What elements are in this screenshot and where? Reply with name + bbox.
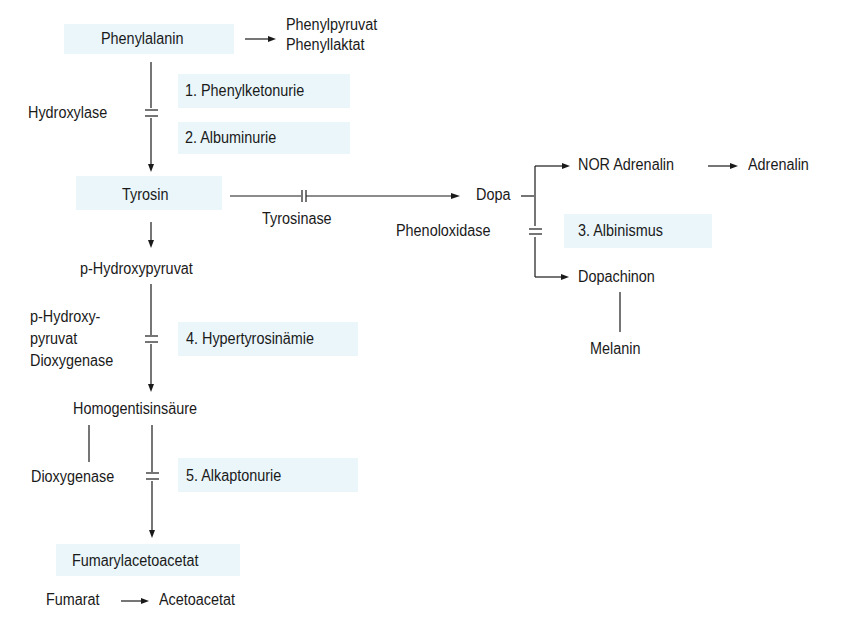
metabolite-dopa: Dopa bbox=[476, 186, 510, 204]
metabolite-phenylalanin: Phenylalanin bbox=[101, 30, 183, 48]
enzyme-phenoloxidase: Phenoloxidase bbox=[396, 222, 490, 240]
enzyme-dioxygenase: Dioxygenase bbox=[31, 468, 114, 486]
metabolite-phenylpyruvat: Phenylpyruvat bbox=[286, 16, 377, 34]
enzyme-p-hydroxypyruvat-dioxygenase-line2: pyruvat bbox=[30, 330, 77, 348]
disorder-label-4: 4. Hypertyrosinämie bbox=[186, 330, 314, 348]
enzyme-hydroxylase: Hydroxylase bbox=[28, 104, 107, 122]
disorder-label-3: 3. Albinismus bbox=[578, 222, 663, 240]
disorder-label-2: 2. Albuminurie bbox=[185, 129, 276, 147]
metabolite-p-hydroxypyruvat: p-Hydroxypyruvat bbox=[80, 260, 193, 278]
enzyme-p-hydroxypyruvat-dioxygenase-line1: p-Hydroxy- bbox=[30, 308, 100, 326]
metabolite-phenyllaktat: Phenyllaktat bbox=[286, 36, 364, 54]
metabolite-dopachinon: Dopachinon bbox=[578, 268, 655, 286]
disorder-label-5: 5. Alkaptonurie bbox=[186, 467, 281, 485]
metabolite-fumarylacetoacetat: Fumarylacetoacetat bbox=[72, 552, 198, 570]
metabolic-pathway-diagram: Phenylalanin Phenylpyruvat Phenyllaktat … bbox=[0, 0, 853, 642]
enzyme-tyrosinase: Tyrosinase bbox=[262, 210, 332, 228]
metabolite-melanin: Melanin bbox=[590, 340, 640, 358]
metabolite-fumarat: Fumarat bbox=[46, 591, 100, 609]
metabolite-acetoacetat: Acetoacetat bbox=[159, 591, 235, 609]
metabolite-tyrosin: Tyrosin bbox=[122, 186, 168, 204]
pathway-connectors bbox=[0, 0, 853, 642]
metabolite-nor-adrenalin: NOR Adrenalin bbox=[578, 156, 674, 174]
enzyme-p-hydroxypyruvat-dioxygenase-line3: Dioxygenase bbox=[30, 352, 113, 370]
disorder-label-1: 1. Phenylketonurie bbox=[185, 82, 304, 100]
metabolite-adrenalin: Adrenalin bbox=[748, 156, 809, 174]
arrow-head bbox=[268, 36, 276, 42]
metabolite-homogentisinsaeure: Homogentisinsäure bbox=[73, 400, 197, 418]
